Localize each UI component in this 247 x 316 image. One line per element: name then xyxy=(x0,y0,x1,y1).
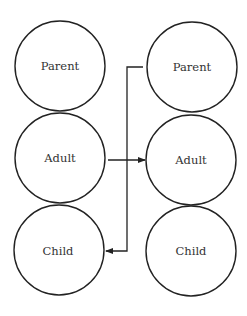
left-column: Parent Adult Child xyxy=(14,21,105,295)
right-parent-label: Parent xyxy=(173,60,212,74)
right-column: Parent Adult Child xyxy=(146,22,237,296)
right-adult-label: Adult xyxy=(174,153,207,167)
left-child-label: Child xyxy=(43,244,75,258)
transactions xyxy=(106,67,145,251)
parent-to-child-arrow xyxy=(106,67,143,251)
left-adult-label: Adult xyxy=(43,151,76,165)
right-child-label: Child xyxy=(176,244,208,258)
ego-state-diagram: Parent Adult Child Parent Adult Child xyxy=(0,0,247,316)
left-parent-label: Parent xyxy=(41,59,80,73)
